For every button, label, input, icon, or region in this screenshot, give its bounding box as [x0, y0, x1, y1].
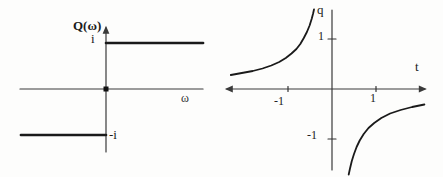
frequency-domain-step-y-axis-arrow	[103, 26, 110, 34]
freq-lower-level-label: -i	[109, 128, 117, 141]
freq-y-axis-label: Q(ω)	[73, 19, 101, 32]
time-y-tick-plus1-label: 1	[318, 30, 324, 42]
time-y-tick-minus1-label: -1	[307, 129, 317, 141]
time-x-tick-minus1-label: -1	[274, 95, 284, 107]
freq-x-axis-label: ω	[181, 92, 189, 104]
time-x-tick-plus1-label: 1	[370, 92, 376, 104]
time-domain-kernel-x-axis-arrow-left	[225, 86, 233, 93]
frequency-domain-step-origin-marker	[104, 87, 109, 92]
time-x-axis-label: t	[415, 60, 419, 73]
freq-upper-level-label: i	[91, 32, 95, 45]
time-domain-kernel-right-branch	[349, 105, 425, 175]
time-domain-kernel-left-branch	[231, 10, 314, 76]
plot-canvas	[0, 0, 443, 177]
time-domain-kernel-x-axis-arrow-right	[419, 86, 427, 93]
time-y-axis-label: q	[317, 3, 324, 16]
hilbert-transform-figure: Q(ω) i -i ω q 1 -1 -1 1 t	[0, 0, 443, 177]
